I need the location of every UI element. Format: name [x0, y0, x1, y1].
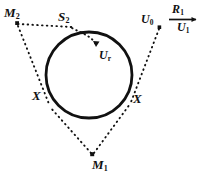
- label-u0-sub: 0: [150, 18, 154, 27]
- point-marker-u0: [158, 25, 162, 29]
- label-m2-base: M: [4, 5, 16, 20]
- label-x-right: X: [133, 92, 142, 105]
- dotted-line-m2-s2: [18, 24, 72, 27]
- label-u0-base: U: [141, 12, 150, 26]
- label-r1: R1: [172, 3, 184, 15]
- label-x-left-base: X: [32, 88, 41, 103]
- label-u0: U0: [141, 13, 153, 25]
- label-ur: Ur: [99, 49, 111, 61]
- label-m1-base: M: [92, 157, 104, 172]
- label-m2-sub: 2: [16, 12, 20, 21]
- figure-root: M2 S2 U0 R1 U1 Ur X X M1: [0, 0, 206, 177]
- r1-arrow-head-icon: [192, 17, 197, 22]
- label-s2-sub: 2: [65, 16, 69, 25]
- label-r1-base: R: [172, 2, 180, 16]
- label-s2: S2: [58, 10, 69, 23]
- point-marker-m2: [15, 21, 19, 25]
- diagram-canvas: [0, 0, 206, 177]
- label-ur-sub: r: [108, 54, 111, 63]
- label-r1-sub: 1: [180, 8, 184, 17]
- dotted-curve-s2-ur: [72, 28, 96, 45]
- label-x-left: X: [32, 89, 41, 102]
- label-u1-base: U: [177, 20, 186, 34]
- ur-arrowhead-icon: [93, 41, 100, 47]
- point-marker-m1: [90, 152, 94, 156]
- label-m1-sub: 1: [104, 164, 108, 173]
- label-m1: M1: [92, 158, 108, 171]
- label-u1: U1: [177, 21, 189, 33]
- label-m2: M2: [4, 6, 20, 19]
- label-x-right-base: X: [133, 91, 142, 106]
- label-u1-sub: 1: [186, 26, 190, 35]
- label-ur-base: U: [99, 48, 108, 62]
- main-circle: [46, 32, 132, 118]
